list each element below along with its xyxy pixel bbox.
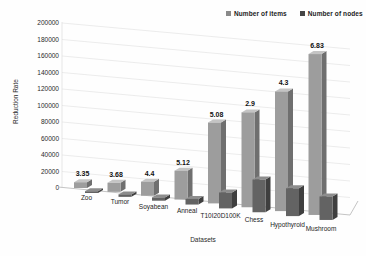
reduction-rate-label: 3.35 [76, 170, 90, 177]
y-tick-label: 160000 [37, 52, 59, 59]
y-tick-label: 200000 [37, 19, 59, 26]
gridline [62, 155, 350, 181]
reduction-rate-label: 5.12 [176, 159, 190, 166]
gridline [62, 56, 350, 82]
legend-nodes-label: Number of nodes [308, 10, 363, 17]
gridline [62, 89, 350, 115]
chart-legend: Number of items Number of nodes [226, 10, 363, 17]
y-tick-label: 180000 [37, 36, 59, 43]
figure-3d-bar-chart: 0200004000060000800001000001200001400001… [0, 0, 366, 256]
items-bar-front-face [141, 182, 154, 196]
category-label: Mushroom [306, 225, 337, 232]
floor-right-edge [350, 201, 358, 215]
category-label: T10I20D100K [200, 212, 241, 219]
items-bar-front-face [108, 183, 121, 192]
y-tick-label: 120000 [37, 85, 59, 92]
nodes-bar-side-face [299, 185, 304, 216]
nodes-bar-side-face [232, 189, 237, 208]
reduction-rate-label: 4.3 [279, 79, 289, 86]
items-bar-front-face [208, 123, 221, 204]
nodes-bar-front-face [320, 196, 333, 220]
items-bar-side-face [154, 179, 159, 196]
nodes-bar-front-face [119, 194, 132, 196]
items-bar-front-face [175, 171, 188, 200]
nodes-bar-front-face [286, 188, 299, 216]
gridline [62, 40, 350, 66]
nodes-bar-front-face [219, 192, 232, 208]
gridline [62, 73, 350, 99]
reduction-rate-label: 2.9 [245, 100, 255, 107]
nodes-bar-front-face [152, 197, 165, 200]
items-bar-front-face [309, 54, 322, 215]
category-label: Chess [245, 216, 264, 223]
nodes-series-marker-icon [300, 11, 305, 16]
items-series-marker-icon [226, 11, 231, 16]
nodes-bar-side-face [266, 176, 271, 212]
category-label: Anneal [177, 207, 198, 214]
y-tick-label: 20000 [41, 168, 59, 175]
legend-entry-items: Number of items [226, 10, 287, 17]
reduction-rate-label: 6.83 [310, 42, 324, 49]
gridline [62, 139, 350, 165]
reduction-rate-label: 5.08 [210, 111, 224, 118]
category-label: Tumor [111, 198, 130, 205]
category-label: Soyabean [139, 203, 169, 211]
y-tick-label: 40000 [41, 151, 59, 158]
x-axis-title: Datasets [172, 236, 234, 243]
legend-entry-nodes: Number of nodes [300, 10, 363, 17]
nodes-bar-front-face [253, 179, 266, 212]
items-bar-front-face [74, 182, 87, 188]
category-label: Hypothyroid [270, 221, 305, 229]
chart-plot-area: 0200004000060000800001000001200001400001… [0, 0, 366, 256]
items-bar-side-face [322, 51, 327, 215]
nodes-bar-front-face [85, 191, 98, 193]
items-bar-side-face [188, 168, 193, 200]
category-label: Zoo [81, 194, 93, 201]
y-tick-label: 100000 [37, 102, 59, 109]
gridline [62, 122, 350, 148]
reduction-rate-label: 4.4 [145, 170, 155, 177]
gridline [62, 23, 350, 49]
gridline [62, 106, 350, 132]
y-tick-label: 140000 [37, 69, 59, 76]
floor-front-edge [58, 187, 350, 215]
nodes-bar-side-face [333, 193, 338, 220]
legend-items-label: Number of items [234, 10, 287, 17]
y-tick-label: 60000 [41, 135, 59, 142]
nodes-bar-front-face [186, 199, 199, 205]
y-tick-label: 80000 [41, 118, 59, 125]
y-axis-title: Reduction Rate [12, 71, 19, 133]
gridline [62, 172, 350, 198]
reduction-rate-label: 3.68 [109, 171, 123, 178]
